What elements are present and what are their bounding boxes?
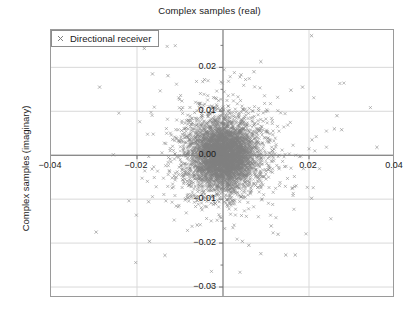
y-tick-label: 0.02	[186, 61, 216, 71]
chart-title: Complex samples (real)	[0, 5, 419, 16]
scatter-plot-figure: Complex samples (real) Complex samples (…	[0, 0, 419, 316]
y-tick-label: −0.03	[186, 281, 216, 291]
x-tick-label: 0.02	[299, 160, 317, 170]
y-tick-label: 0.00	[186, 149, 216, 159]
x-tick-label: −0.04	[39, 160, 62, 170]
y-tick-label: −0.01	[186, 193, 216, 203]
x-tick-label: 0.04	[385, 160, 403, 170]
y-tick-label: 0.01	[186, 105, 216, 115]
y-tick-label: −0.02	[186, 237, 216, 247]
y-axis-label: Complex samples (imaginary)	[20, 74, 31, 264]
plot-area	[50, 29, 394, 297]
x-tick-label: −0.02	[125, 160, 148, 170]
legend-entry-label: Directional receiver	[70, 34, 151, 44]
legend-marker-x-icon	[56, 34, 65, 43]
plot-canvas	[51, 30, 394, 297]
legend-box: Directional receiver	[51, 30, 159, 47]
